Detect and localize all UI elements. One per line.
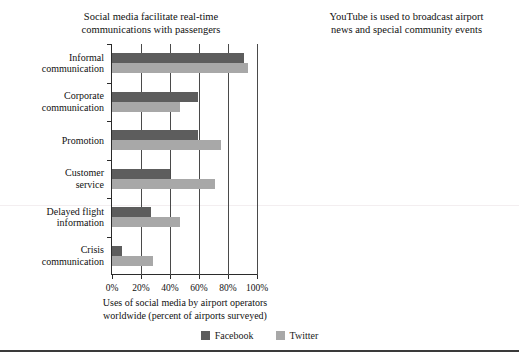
category-label-line: communication <box>6 63 104 75</box>
category-label-line: Promotion <box>6 135 104 147</box>
chart-title-right-line2: news and special community events <box>300 23 513 36</box>
gridline-80 <box>228 44 229 275</box>
category-label-line: Delayed flight <box>6 206 104 218</box>
plot-area-left: 0%20%40%60%80%100%InformalcommunicationC… <box>111 44 257 275</box>
chart-title-left-line1: Social media facilitate real-time <box>40 10 262 23</box>
x-tick-label-0: 0% <box>106 283 119 293</box>
bar-twitter-5 <box>112 256 153 266</box>
chart-panel-social-media: Social media facilitate real-time commun… <box>0 0 270 320</box>
y-tick-5 <box>107 237 111 238</box>
y-tick-2 <box>107 121 111 122</box>
category-label-line: service <box>6 179 104 191</box>
y-tick-3 <box>107 160 111 161</box>
x-axis-line-left <box>111 274 257 275</box>
gridline-20 <box>141 44 142 275</box>
bar-twitter-0 <box>112 63 248 73</box>
gridline-40 <box>170 44 171 275</box>
chart-title-left: Social media facilitate real-time commun… <box>0 10 270 36</box>
y-tick-0 <box>107 44 111 45</box>
x-tick-label-40: 40% <box>161 283 178 293</box>
category-label-line: Customer <box>6 167 104 179</box>
bar-facebook-0 <box>112 53 244 63</box>
bottom-rule <box>0 350 519 352</box>
bar-facebook-4 <box>112 207 151 217</box>
x-tick-20 <box>141 275 142 279</box>
y-axis-line-left <box>111 44 112 275</box>
legend-swatch-icon-twitter <box>276 331 285 340</box>
chart-title-right: YouTube is used to broadcast airport new… <box>270 10 519 36</box>
bar-facebook-2 <box>112 130 198 140</box>
x-tick-100 <box>257 275 258 279</box>
bar-twitter-2 <box>112 140 221 150</box>
x-tick-80 <box>228 275 229 279</box>
bar-twitter-4 <box>112 217 180 227</box>
category-label-line: communication <box>6 102 104 114</box>
chart-title-right-line1: YouTube is used to broadcast airport <box>300 10 513 23</box>
x-axis-caption-left: Uses of social media by airport operator… <box>95 297 275 322</box>
category-label-left-5: Crisiscommunication <box>6 244 104 267</box>
legend-label: Facebook <box>215 330 254 341</box>
legend-item-facebook[interactable]: Facebook <box>201 330 254 341</box>
x-tick-60 <box>199 275 200 279</box>
legend-item-twitter[interactable]: Twitter <box>276 330 319 341</box>
bar-twitter-3 <box>112 179 215 189</box>
category-label-line: Informal <box>6 52 104 64</box>
category-label-line: Crisis <box>6 244 104 256</box>
category-label-line: information <box>6 217 104 229</box>
figure-root: Social media facilitate real-time commun… <box>0 0 519 356</box>
bar-twitter-1 <box>112 102 180 112</box>
category-label-left-2: Promotion <box>6 135 104 147</box>
x-axis-caption-left-line2: worldwide (percent of airports surveyed) <box>95 310 275 323</box>
gridline-60 <box>199 44 200 275</box>
category-label-line: Corporate <box>6 90 104 102</box>
gridline-100 <box>257 44 258 275</box>
x-axis-caption-left-line1: Uses of social media by airport operator… <box>95 297 275 310</box>
x-tick-label-60: 60% <box>190 283 207 293</box>
category-label-left-0: Informalcommunication <box>6 52 104 75</box>
bar-facebook-1 <box>112 92 198 102</box>
x-tick-label-80: 80% <box>219 283 236 293</box>
x-tick-label-20: 20% <box>132 283 149 293</box>
x-tick-40 <box>170 275 171 279</box>
chart-title-left-line2: communications with passengers <box>40 23 262 36</box>
legend-label: Twitter <box>290 330 319 341</box>
chart-panel-youtube: YouTube is used to broadcast airport new… <box>270 0 519 320</box>
legend-swatch-icon-facebook <box>201 331 210 340</box>
category-label-left-3: Customerservice <box>6 167 104 190</box>
y-tick-1 <box>107 83 111 84</box>
category-label-line: communication <box>6 256 104 268</box>
bar-facebook-3 <box>112 169 170 179</box>
category-label-left-4: Delayed flightinformation <box>6 206 104 229</box>
y-tick-4 <box>107 198 111 199</box>
x-tick-label-100: 100% <box>246 283 268 293</box>
bar-facebook-5 <box>112 246 122 256</box>
x-tick-0 <box>112 275 113 279</box>
category-label-left-1: Corporatecommunication <box>6 90 104 113</box>
chart-legend: FacebookTwitter <box>0 330 519 341</box>
